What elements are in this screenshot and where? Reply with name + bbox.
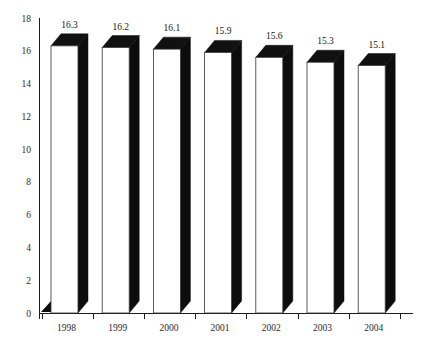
bar-value-label: 15.9 xyxy=(215,26,232,36)
y-axis-tick-label: 12 xyxy=(22,112,32,122)
bar-value-label: 16.1 xyxy=(164,23,181,33)
bar-column xyxy=(358,54,395,313)
bar-column xyxy=(256,45,293,313)
bar-side-face xyxy=(385,54,395,313)
bar-front-face xyxy=(102,48,129,314)
bar-column xyxy=(51,34,88,313)
bar-side-face xyxy=(78,34,88,313)
bar-series xyxy=(51,34,395,313)
y-axis-tick-label: 10 xyxy=(22,145,32,155)
y-axis-tick-label: 2 xyxy=(26,276,31,286)
y-axis-tick-label: 14 xyxy=(22,79,32,89)
bar-value-label: 15.3 xyxy=(317,36,334,46)
x-axis-category-label: 2002 xyxy=(262,323,281,333)
x-axis-category-label: 2000 xyxy=(159,323,178,333)
x-axis-category-label: 2001 xyxy=(211,323,230,333)
y-axis-tick-label: 18 xyxy=(22,14,32,24)
x-axis-category-label: 1998 xyxy=(57,323,76,333)
bar-value-label: 15.1 xyxy=(368,40,385,50)
x-axis-category-label: 2003 xyxy=(313,323,332,333)
bar-front-face xyxy=(205,52,232,313)
y-axis-tick-label: 8 xyxy=(26,177,31,187)
bar-column xyxy=(205,40,242,313)
bar-front-face xyxy=(358,66,385,313)
bar-chart: 024681012141618 16.316.216.115.915.615.3… xyxy=(0,0,444,345)
y-axis-tick-labels: 024681012141618 xyxy=(22,14,32,319)
bar-value-label: 16.3 xyxy=(61,20,78,30)
y-axis-tick-label: 6 xyxy=(26,210,31,220)
x-axis-category-label: 1999 xyxy=(108,323,127,333)
y-axis-tick-label: 4 xyxy=(26,243,31,253)
bar-front-face xyxy=(153,49,180,313)
y-axis-tick-label: 16 xyxy=(22,46,32,56)
y-axis-tick-label: 0 xyxy=(26,309,31,319)
bar-side-face xyxy=(180,37,190,313)
bar-side-face xyxy=(129,36,139,314)
bar-front-face xyxy=(51,46,78,313)
x-axis-category-label: 2004 xyxy=(364,323,383,333)
bar-side-face xyxy=(334,50,344,313)
bar-column xyxy=(102,36,139,314)
axis-floor-wedge xyxy=(41,300,52,312)
bar-front-face xyxy=(256,57,283,313)
bar-column xyxy=(153,37,190,313)
bar-front-face xyxy=(307,62,334,313)
bar-value-label: 16.2 xyxy=(112,22,129,32)
bar-side-face xyxy=(232,40,242,313)
bar-side-face xyxy=(283,45,293,313)
bar-value-label: 15.6 xyxy=(266,31,283,41)
chart-canvas: 024681012141618 16.316.216.115.915.615.3… xyxy=(0,0,444,345)
bar-column xyxy=(307,50,344,313)
x-axis-category-labels: 1998199920002001200220032004 xyxy=(57,323,383,333)
